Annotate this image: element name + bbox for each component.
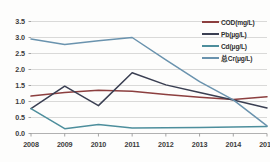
legend-color-swatch-pb bbox=[202, 33, 219, 35]
y-axis-tick-label: 2.0 bbox=[3, 65, 25, 74]
x-axis-tick-label: 2009 bbox=[50, 140, 80, 149]
x-axis-tick-label: 2015 bbox=[252, 140, 270, 149]
legend-label-cr: 总Cr(μg/L) bbox=[221, 53, 252, 63]
y-axis-tick-label: 3.5 bbox=[3, 17, 25, 26]
y-axis-tick-label: 0.5 bbox=[3, 113, 25, 122]
legend: COD(mg/L) Pb(μg/L) Cd(μg/L) 总Cr(μg/L) bbox=[202, 16, 268, 64]
legend-label-pb: Pb(μg/L) bbox=[221, 31, 247, 38]
legend-color-swatch-cd bbox=[202, 45, 219, 47]
y-axis-tick-label: 2.5 bbox=[3, 49, 25, 58]
legend-label-cod: COD(mg/L) bbox=[221, 19, 254, 26]
y-axis-tick-label: 0.0 bbox=[3, 129, 25, 138]
series-line-2 bbox=[31, 109, 267, 129]
x-axis-tick-label: 2012 bbox=[151, 140, 181, 149]
x-axis-tick-label: 2011 bbox=[117, 140, 147, 149]
series-line-1 bbox=[31, 73, 267, 109]
x-axis-tick-label: 2014 bbox=[218, 140, 248, 149]
legend-item[interactable]: 总Cr(μg/L) bbox=[202, 52, 268, 64]
x-axis-tick-label: 2013 bbox=[185, 140, 215, 149]
y-axis-tick-label: 3.0 bbox=[3, 33, 25, 42]
legend-color-swatch-cr bbox=[202, 57, 219, 59]
legend-item[interactable]: Cd(μg/L) bbox=[202, 40, 268, 52]
legend-color-swatch-cod bbox=[202, 21, 219, 23]
legend-label-cd: Cd(μg/L) bbox=[221, 43, 247, 50]
y-axis-tick-label: 1.0 bbox=[3, 97, 25, 106]
x-axis-tick-label: 2010 bbox=[83, 140, 113, 149]
x-axis-tick-label: 2008 bbox=[16, 140, 46, 149]
y-axis-tick-label: 1.5 bbox=[3, 81, 25, 90]
legend-item[interactable]: COD(mg/L) bbox=[202, 16, 268, 28]
legend-item[interactable]: Pb(μg/L) bbox=[202, 28, 268, 40]
line-chart: 0.00.51.01.52.02.53.03.5 200820092010201… bbox=[0, 0, 270, 162]
